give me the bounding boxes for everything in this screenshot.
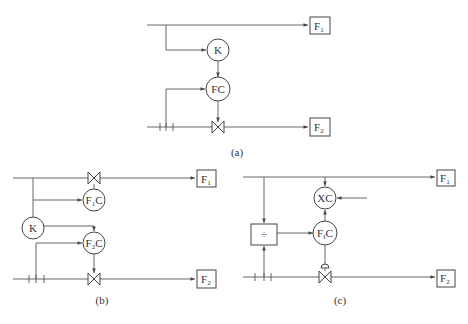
inner-controller-label: FfC xyxy=(317,227,333,241)
panel-b: F1 F1C K F2C F2 (b) xyxy=(13,170,216,307)
signal-line-k-to-f2c xyxy=(44,226,94,231)
divider-symbol: ÷ xyxy=(261,228,267,240)
caption-b: (b) xyxy=(96,294,109,307)
panel-c: F1 XC ÷ FfC F2 (c) xyxy=(243,170,455,307)
signal-line-f1-to-k xyxy=(166,25,206,50)
feedback-line-f2-to-f2c xyxy=(36,243,82,279)
feedback-line-f2-to-fc xyxy=(166,89,205,127)
control-valve-icon xyxy=(212,121,224,133)
control-valve-icon xyxy=(319,271,331,283)
caption-c: (c) xyxy=(334,294,347,307)
panel-a: F1 K FC F2 (a) xyxy=(147,17,330,159)
flow-controller-label: FC xyxy=(211,83,224,95)
ratio-control-diagram: F1 K FC F2 (a) F1 F1C xyxy=(0,0,468,324)
ratio-block-label: K xyxy=(29,222,37,234)
caption-a: (a) xyxy=(231,146,244,159)
valve-actuator-icon xyxy=(321,264,329,268)
control-valve-icon xyxy=(88,172,100,184)
ratio-block-label: K xyxy=(214,44,222,56)
control-valve-icon xyxy=(88,273,100,285)
outer-controller-label: XC xyxy=(317,192,332,204)
